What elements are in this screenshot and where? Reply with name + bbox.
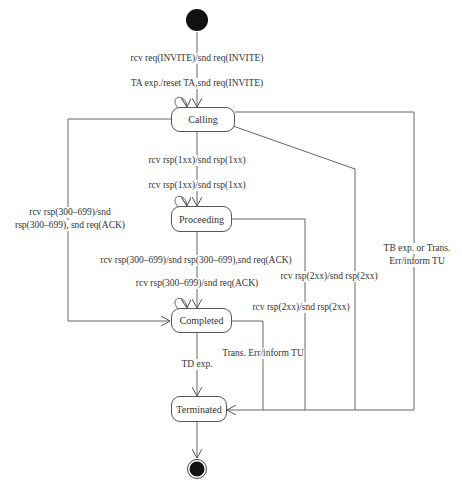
transition-completed-terminated-err (232, 321, 263, 410)
label-proceeding-terminated-2xx: rcv rsp(2xx)/snd rsp(2xx) (252, 302, 349, 313)
state-calling-label: Calling (188, 114, 217, 125)
label-tb-exp-2: Err/inform TU (389, 256, 445, 267)
label-calling-completed-1: rcv rsp(300–699)/snd (29, 207, 111, 218)
label-init-calling: rcv req(INVITE)/snd req(INVITE) (131, 53, 264, 64)
state-terminated: Terminated (171, 396, 227, 422)
state-completed: Completed (171, 308, 232, 333)
initial-state-icon (186, 9, 208, 31)
state-proceeding-label: Proceeding (179, 214, 224, 225)
transition-calling-terminated-2xx (233, 126, 355, 410)
label-calling-self: TA exp./reset TA,snd req(INVITE) (131, 78, 264, 89)
label-calling-terminated-2xx: rcv rsp(2xx)/snd rsp(2xx) (280, 271, 377, 282)
state-completed-label: Completed (180, 315, 224, 326)
state-terminated-label: Terminated (176, 404, 221, 415)
label-td-exp: TD exp. (181, 359, 212, 370)
label-proceeding-self: rcv rsp(1xx)/snd rsp(1xx) (148, 180, 245, 191)
state-calling: Calling (171, 107, 235, 132)
label-calling-proceeding: rcv rsp(1xx)/snd rsp(1xx) (148, 155, 245, 166)
label-completed-terminated-err: Trans. Err/inform TU (222, 348, 304, 359)
label-proceeding-completed: rcv rsp(300–699)/snd rsp(300–699),snd re… (100, 255, 292, 266)
label-calling-completed-2: rsp(300–699), snd req(ACK) (15, 220, 125, 231)
label-tb-exp-1: TB exp. or Trans. (384, 243, 451, 254)
state-proceeding: Proceeding (171, 206, 232, 232)
label-completed-self: rcv rsp(300–699)/snd req(ACK) (136, 278, 258, 289)
transition-proceeding-terminated-2xx (232, 219, 305, 410)
